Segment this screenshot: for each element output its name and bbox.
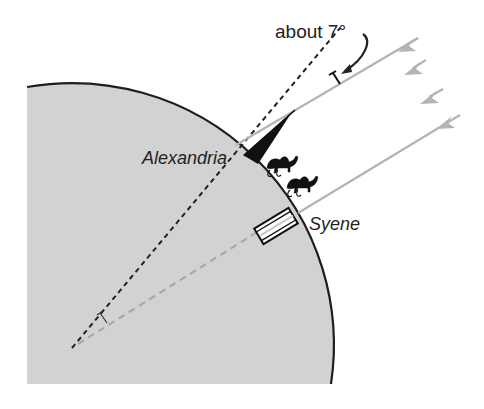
earth [27,83,334,384]
camel-icon [267,156,298,177]
sun-ray-arrow-icon [420,89,443,104]
sun-ray-arrow-icon [436,116,455,129]
earth-fill [27,83,334,384]
sun-ray-arrow-icon [404,60,426,75]
sun-ray-alexandria [236,38,418,145]
alexandria-label: Alexandria [141,148,227,168]
sun-ray-syene [298,115,460,213]
angle-marker-icon [329,71,340,84]
camel-icon [287,176,318,197]
eratosthenes-diagram: about 7° Alexandria Syene [0,0,484,409]
angle-label: about 7° [275,21,346,42]
syene-label: Syene [309,214,360,234]
sun-ray-arrow-icon [398,38,418,52]
